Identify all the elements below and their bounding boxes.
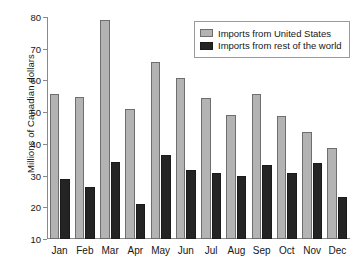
y-axis-tick-label: 60: [30, 75, 41, 86]
bar: [136, 204, 146, 239]
y-axis-tick-label: 40: [30, 138, 41, 149]
bar: [85, 187, 95, 239]
legend-label: Imports from rest of the world: [218, 40, 342, 51]
x-axis-tick-label: Mar: [102, 245, 119, 256]
bar: [212, 173, 222, 239]
y-axis-tick-label: 80: [30, 12, 41, 23]
y-axis-tick-label: 10: [30, 234, 41, 245]
x-axis-tick-label: Jul: [205, 245, 218, 256]
y-axis-tick-label: 30: [30, 170, 41, 181]
bar: [338, 197, 348, 239]
bar: [237, 176, 247, 239]
bar: [50, 94, 60, 239]
bar-chart: Millions of Canadian dollars 10203040506…: [0, 0, 362, 271]
bar: [151, 62, 161, 239]
bar: [100, 20, 110, 239]
bar: [125, 109, 135, 239]
bar: [60, 179, 70, 239]
bar-group: [75, 17, 95, 239]
x-axis-tick-label: Apr: [128, 245, 144, 256]
bar: [327, 148, 337, 239]
x-axis-tick-label: Sep: [253, 245, 271, 256]
bar: [226, 115, 236, 239]
x-axis-tick-label: Dec: [328, 245, 346, 256]
bar-group: [100, 17, 120, 239]
legend-swatch-icon: [200, 29, 213, 37]
legend-item: Imports from United States: [200, 28, 342, 39]
bar-group: [151, 17, 171, 239]
x-axis-tick-label: Feb: [76, 245, 93, 256]
bar: [176, 78, 186, 239]
bar: [302, 132, 312, 239]
bar: [161, 155, 171, 239]
bar: [111, 162, 121, 239]
bar: [201, 98, 211, 239]
bar: [186, 170, 196, 239]
x-axis-tick-label: Jun: [178, 245, 194, 256]
bar-group: [125, 17, 145, 239]
legend-item: Imports from rest of the world: [200, 40, 342, 51]
bar: [277, 116, 287, 239]
bar: [262, 165, 272, 239]
y-axis-tick-label: 50: [30, 107, 41, 118]
bar: [252, 94, 262, 239]
chart-legend: Imports from United StatesImports from r…: [194, 21, 350, 58]
y-axis-tick-label: 20: [30, 202, 41, 213]
bar-group: [176, 17, 196, 239]
x-axis-tick-label: May: [151, 245, 170, 256]
x-axis-tick-label: Jan: [52, 245, 68, 256]
legend-swatch-icon: [200, 42, 213, 50]
legend-label: Imports from United States: [218, 28, 331, 39]
x-axis-tick-label: Aug: [227, 245, 245, 256]
x-axis-tick-label: Oct: [279, 245, 295, 256]
y-axis-tick-label: 70: [30, 43, 41, 54]
x-axis-tick-label: Nov: [303, 245, 321, 256]
bar: [313, 163, 323, 239]
bar: [75, 97, 85, 239]
y-axis-tick: [43, 239, 47, 240]
bar: [287, 173, 297, 239]
bar-group: [50, 17, 70, 239]
